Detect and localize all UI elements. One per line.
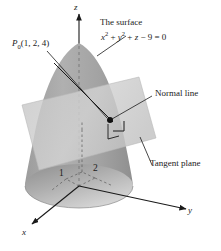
equation-plus-1: +: [108, 32, 118, 42]
axis-label-x: x: [22, 227, 26, 237]
axis-label-z: z: [74, 2, 78, 12]
equation-equals: = 0: [152, 32, 166, 42]
point-p0-label: P0(1, 2, 4): [12, 38, 49, 50]
figure-canvas: The surface x2 + y2 + z − 9 = 0 P0(1, 2,…: [0, 0, 221, 251]
p0-coords: (1, 2, 4): [21, 38, 50, 48]
equation-minus: −: [138, 32, 148, 42]
tangent-plane-label: Tangent plane: [150, 158, 201, 168]
surface-label-line1: The surface: [100, 17, 142, 27]
normal-line-label: Normal line: [155, 88, 198, 98]
axis-label-y: y: [188, 205, 192, 215]
tick-label-x-1: 1: [59, 168, 64, 179]
surface-equation: x2 + y2 + z − 9 = 0: [101, 30, 166, 42]
tangent-plane: [22, 77, 156, 170]
equation-plus-2: +: [125, 32, 135, 42]
point-p0-marker: [107, 117, 113, 123]
tick-label-y-2: 2: [93, 163, 98, 174]
